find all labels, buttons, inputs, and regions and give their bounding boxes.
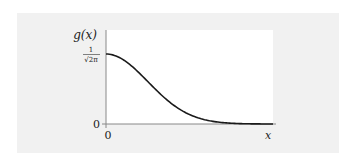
gaussian-chart: g(x) 1 √2π 0 0 x bbox=[0, 0, 353, 159]
y-tick-top-denominator: √2π bbox=[84, 56, 98, 64]
plot-area bbox=[106, 30, 273, 124]
y-tick-top-numerator: 1 bbox=[89, 46, 93, 54]
y-tick-zero: 0 bbox=[93, 118, 100, 131]
y-axis-label: g(x) bbox=[73, 28, 97, 42]
x-tick-zero: 0 bbox=[105, 129, 112, 142]
x-axis-label: x bbox=[265, 129, 272, 142]
